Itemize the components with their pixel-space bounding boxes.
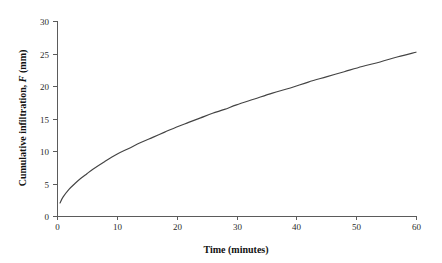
y-tick-label: 10 [40,147,50,157]
series-line-cumulative-infiltration [60,52,416,203]
y-tick-label: 0 [45,212,50,222]
x-tick-label: 10 [113,222,123,232]
y-tick-label: 25 [40,50,50,60]
y-axis-ticks [53,22,57,217]
x-tick-label: 40 [292,222,302,232]
y-tick-label: 30 [40,17,50,27]
x-axis-title: Time (minutes) [203,244,268,256]
y-tick-label: 15 [40,115,50,125]
x-tick-label: 60 [412,222,422,232]
y-axis-title: Cumulative infiltration, F (mm) [17,50,29,187]
y-tick-label: 20 [40,82,50,92]
x-tick-label: 50 [352,222,362,232]
x-tick-label: 30 [233,222,243,232]
chart-plot: 051015202530 0102030405060 Time (minutes… [0,0,442,263]
y-tick-label: 5 [45,180,50,190]
x-tick-label: 0 [55,222,60,232]
chart-figure: 051015202530 0102030405060 Time (minutes… [0,0,442,263]
x-tick-label: 20 [173,222,183,232]
data-series-group [60,52,416,203]
x-axis-tick-labels: 0102030405060 [55,222,421,232]
y-axis-tick-labels: 051015202530 [40,17,50,222]
